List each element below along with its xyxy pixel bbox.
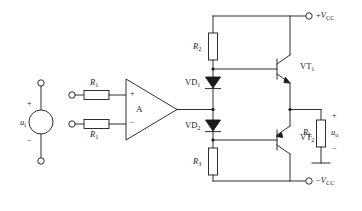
resistor-r1-top-label: R1	[90, 78, 98, 87]
voltage-source-symbol	[29, 110, 53, 134]
resistor-r1-bottom-label: R1	[90, 130, 98, 139]
transistor-vt1-symbol	[213, 16, 290, 110]
source-minus-sign: −	[27, 137, 32, 145]
source-plus-sign: +	[27, 100, 32, 108]
transistor-vt1-emitter-arrow	[284, 77, 290, 83]
resistor-r2-label: R2	[193, 42, 201, 51]
node-opamp-output	[211, 108, 214, 111]
output-minus-sign: −	[332, 145, 337, 153]
node-vt1-base	[211, 67, 214, 70]
opamp-noninverting-sign: +	[130, 90, 135, 98]
negative-rail-label: −VCC	[316, 176, 334, 185]
resistor-r2-body	[209, 33, 218, 60]
resistor-rl-body	[317, 120, 326, 147]
negative-rail	[213, 178, 312, 184]
diode-vd1-label: VD1	[185, 78, 200, 87]
negative-rail-terminal-icon[interactable]	[306, 178, 312, 184]
transistor-vt2-symbol	[213, 110, 290, 182]
bias-network-branch	[206, 16, 221, 181]
input-top-terminal-icon[interactable]	[69, 92, 75, 98]
source-top-terminal-icon[interactable]	[38, 80, 44, 86]
opamp-inverting-sign: −	[130, 119, 135, 127]
input-resistor-bottom-branch	[69, 120, 126, 129]
diode-vd2-triangle	[206, 120, 221, 131]
source-bottom-terminal-icon[interactable]	[38, 158, 44, 164]
input-bottom-terminal-icon[interactable]	[69, 121, 75, 127]
resistor-r1-bottom-body	[84, 120, 109, 129]
positive-rail-label: +VCC	[316, 11, 334, 20]
node-vt2-base	[211, 138, 214, 141]
source-label: ui	[20, 118, 26, 127]
output-plus-sign: +	[332, 112, 337, 120]
diode-vd1-triangle	[206, 77, 221, 88]
opamp-label: A	[136, 105, 143, 114]
resistor-r3-label: R3	[193, 157, 201, 166]
junction-dots	[211, 67, 291, 141]
diode-vd2-label: VD2	[185, 121, 200, 130]
positive-rail-terminal-icon[interactable]	[306, 13, 312, 19]
resistor-r1-top-body	[84, 91, 109, 100]
positive-rail	[213, 13, 312, 19]
resistor-r3-body	[209, 148, 218, 175]
input-source-branch	[29, 80, 53, 164]
node-output-emitters	[288, 108, 291, 111]
output-voltage-label: uo	[331, 128, 338, 137]
circuit-diagram: ui + − R1 R1 + − A R2 R3 VD1 VD2 VT1 VT2…	[0, 0, 362, 211]
circuit-schematic-svg	[0, 0, 362, 211]
input-resistor-top-branch	[69, 91, 126, 100]
resistor-rl-label: RL	[303, 128, 312, 137]
transistor-vt1-label: VT1	[300, 62, 314, 71]
